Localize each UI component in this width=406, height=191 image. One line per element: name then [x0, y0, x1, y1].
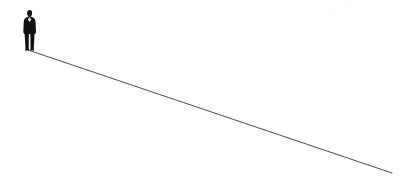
background-rect: [0, 0, 406, 191]
left-shoe-shape: [25, 49, 29, 51]
scene-canvas: Man standing with long shadow A lone sil…: [0, 0, 406, 191]
scene-illustration: [0, 0, 406, 191]
right-shoe-shape: [30, 49, 34, 51]
head-shape: [27, 10, 32, 16]
